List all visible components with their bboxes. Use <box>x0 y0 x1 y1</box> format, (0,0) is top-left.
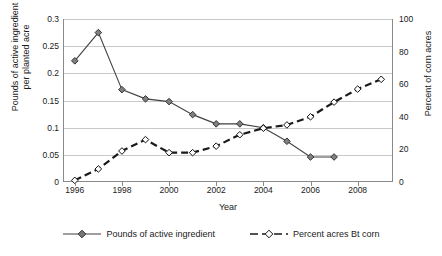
x-axis-tick-label: 2004 <box>254 186 273 195</box>
data-point-marker <box>307 154 314 161</box>
data-point-marker <box>142 96 149 103</box>
x-axis-tick-mark <box>358 182 359 186</box>
legend-marker-dashed-open-diamond-icon <box>249 228 289 240</box>
data-point-marker <box>189 111 196 118</box>
chart-container: Pounds of active ingredient per planted … <box>0 0 442 256</box>
chart-legend: Pounds of active ingredient Percent acre… <box>0 228 442 240</box>
legend-item-pounds-of-active-ingredient: Pounds of active ingredient <box>62 228 215 240</box>
x-axis-tick-mark <box>263 182 264 186</box>
x-axis-tick-mark <box>169 182 170 186</box>
x-axis-tick-mark <box>311 182 312 186</box>
x-axis-title: Year <box>63 202 393 213</box>
data-point-marker <box>119 86 126 93</box>
x-axis-tick-label: 2006 <box>301 186 320 195</box>
x-axis-ticks: 1996199820002002200420062008 <box>63 186 393 198</box>
data-point-marker <box>236 121 243 128</box>
series-2 <box>71 76 384 184</box>
legend-item-percent-acres-bt-corn: Percent acres Bt corn <box>249 228 380 240</box>
x-axis-tick-label: 2000 <box>160 186 179 195</box>
series-line <box>75 33 334 157</box>
data-point-marker <box>331 154 338 161</box>
data-point-marker <box>378 76 385 83</box>
x-axis-tick-label: 2008 <box>348 186 367 195</box>
series-layer <box>0 0 442 256</box>
data-point-marker <box>213 121 220 128</box>
data-point-marker <box>284 122 291 129</box>
data-point-marker <box>189 149 196 156</box>
data-point-marker <box>354 86 361 93</box>
series-line <box>75 79 381 180</box>
x-axis-tick-label: 1996 <box>65 186 84 195</box>
x-axis-tick-label: 2002 <box>207 186 226 195</box>
data-point-marker <box>260 125 267 132</box>
x-axis-tick-mark <box>216 182 217 186</box>
x-axis-tick-mark <box>122 182 123 186</box>
legend-label-series2: Percent acres Bt corn <box>293 229 380 239</box>
x-axis-tick-mark <box>75 182 76 186</box>
data-point-marker <box>284 138 291 145</box>
legend-label-series1: Pounds of active ingredient <box>106 229 215 239</box>
legend-marker-solid-filled-diamond-icon <box>62 228 102 240</box>
data-point-marker <box>166 98 173 105</box>
series-1 <box>71 29 337 160</box>
x-axis-tick-label: 1998 <box>112 186 131 195</box>
